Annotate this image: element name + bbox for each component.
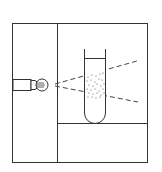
outer-frame	[13, 24, 148, 163]
test-tube	[85, 49, 106, 124]
tyndall-diagram	[0, 0, 162, 172]
light-bulb-icon	[13, 79, 48, 91]
